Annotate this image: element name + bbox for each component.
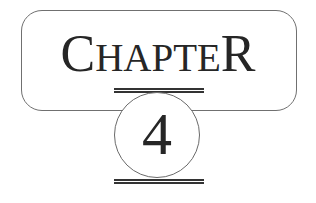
chapter-title: CHAPTER [0, 28, 316, 80]
double-rule-bottom [114, 179, 204, 185]
chapter-title-initial: C [60, 25, 95, 82]
chapter-number: 4 [114, 104, 200, 164]
chapter-heading-graphic: CHAPTER 4 [0, 0, 316, 203]
chapter-title-final: R [221, 25, 256, 82]
chapter-title-middle: HAPTE [95, 36, 221, 79]
